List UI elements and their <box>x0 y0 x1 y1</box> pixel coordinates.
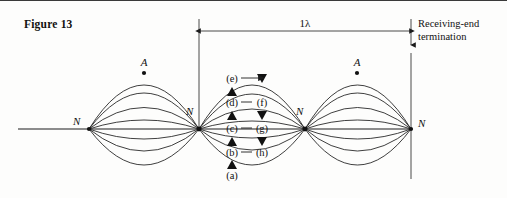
node-dot-2 <box>197 127 202 132</box>
wave-loop-right <box>305 85 411 165</box>
phase-label-column-left: (e) (d) (c) (b) (a) <box>226 73 239 182</box>
termination-group: Receiving-end termination <box>411 18 480 179</box>
antinode-label-1: A <box>140 56 148 68</box>
node-dot-1 <box>87 127 91 131</box>
antinode-label-2: A <box>353 56 361 68</box>
wave-curve-m-down3 <box>199 129 305 165</box>
wave-curve-d-up <box>89 120 199 129</box>
phase-label-f: (f) <box>257 97 268 109</box>
wave-curve-m-up3 <box>199 109 305 129</box>
node-label-4: N <box>417 117 426 129</box>
node-dot-3 <box>303 127 308 132</box>
figure-container: Figure 13 1λ Receiving-end termination <box>0 0 507 198</box>
phase-label-d: (d) <box>226 97 239 109</box>
node-label-2: N <box>185 105 194 117</box>
up-triangle-icon-de <box>227 87 237 96</box>
wave-curve-r-outer-up <box>305 85 411 129</box>
antinode-dot-2 <box>355 71 359 75</box>
wave-curve-r-up2 <box>305 93 411 129</box>
standing-wave-diagram: 1λ Receiving-end termination <box>0 1 507 198</box>
wave-curve-r-down1 <box>305 129 411 139</box>
up-triangle-icon-cd <box>227 111 237 120</box>
wave-curve-m-outer-up <box>199 85 305 129</box>
wave-loop-middle <box>199 85 305 165</box>
phase-label-a: (a) <box>226 170 238 182</box>
wave-curve-b-up <box>89 93 199 129</box>
phase-label-g: (g) <box>256 123 269 135</box>
phase-label-c: (c) <box>226 123 238 135</box>
termination-label-line1: Receiving-end <box>418 18 480 29</box>
dimension-label: 1λ <box>300 17 312 29</box>
phase-label-b: (b) <box>226 147 239 159</box>
down-triangle-icon-gh <box>257 137 267 146</box>
down-triangle-icon-ef <box>257 74 267 83</box>
node-label-1: N <box>72 115 81 127</box>
wave-curve-a-outer-up <box>89 85 199 129</box>
wave-loop-left <box>89 85 199 165</box>
node-dot-4 <box>409 127 413 131</box>
down-triangle-icon-fg <box>257 111 267 120</box>
antinode-dot-1 <box>142 71 146 75</box>
wave-curve-r-up4 <box>305 120 411 129</box>
phase-label-e: (e) <box>226 73 238 85</box>
termination-label-line2: termination <box>418 31 467 42</box>
wave-curve-m-down1 <box>199 129 305 138</box>
wave-curve-m-up2 <box>199 94 305 129</box>
phase-label-h: (h) <box>256 147 269 159</box>
node-label-3: N <box>295 105 304 117</box>
wave-curve-e-down <box>89 129 199 139</box>
up-triangle-icon-bc <box>227 137 237 146</box>
